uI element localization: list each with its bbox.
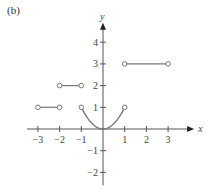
open-endpoint-icon [57,105,62,110]
y-tick-label: −2 [87,167,98,178]
open-endpoint-icon [36,105,41,110]
y-axis-label: y [99,11,105,22]
y-axis-arrow-icon [100,23,106,30]
open-endpoint-icon [166,62,171,67]
y-tick-label: 4 [93,37,98,48]
y-tick-label: 1 [93,102,98,113]
y-tick-label: −1 [87,145,98,156]
y-tick-label: 3 [93,58,98,69]
x-tick-label: 1 [122,134,127,145]
open-endpoint-icon [122,105,127,110]
x-axis-arrow-icon [187,126,194,132]
open-endpoint-icon [79,105,84,110]
x-tick-label: −2 [54,134,65,145]
x-tick-label: 3 [166,134,171,145]
x-axis-label: x [197,123,203,134]
piecewise-function-graph: xy−3−2−1123−2−11234 [0,0,215,193]
open-endpoint-icon [79,83,84,88]
open-endpoint-icon [122,62,127,67]
x-tick-label: −1 [76,134,87,145]
open-endpoint-icon [57,83,62,88]
x-tick-label: −3 [33,134,44,145]
x-tick-label: 2 [144,134,149,145]
y-tick-label: 2 [93,80,98,91]
